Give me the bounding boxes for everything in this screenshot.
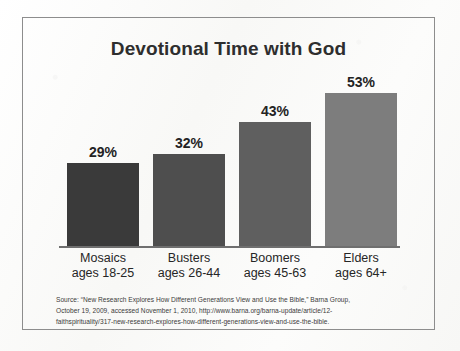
- bar-boomers: [239, 122, 311, 246]
- category-ages-busters: ages 26-44: [143, 266, 235, 281]
- category-label-boomers: Boomers ages 45-63: [229, 251, 321, 280]
- bar-value-label-boomers: 43%: [239, 103, 311, 119]
- source-line-3: faithspirituality/317-new-research-explo…: [56, 316, 426, 327]
- category-name-busters: Busters: [143, 251, 235, 266]
- figure-frame: Devotional Time with God 29% 32% 43% 53%…: [22, 17, 435, 330]
- x-axis-baseline: [59, 246, 400, 248]
- category-ages-elders: ages 64+: [315, 266, 407, 281]
- bar-group-boomers: 43%: [239, 74, 311, 246]
- x-axis-category-labels: Mosaics ages 18-25 Busters ages 26-44 Bo…: [63, 251, 396, 287]
- category-ages-mosaics: ages 18-25: [57, 266, 149, 281]
- source-citation: Source: “New Research Explores How Diffe…: [56, 294, 426, 328]
- bar-group-elders: 53%: [325, 74, 397, 246]
- category-ages-boomers: ages 45-63: [229, 266, 321, 281]
- category-label-elders: Elders ages 64+: [315, 251, 407, 280]
- bar-value-label-elders: 53%: [325, 74, 397, 90]
- category-name-boomers: Boomers: [229, 251, 321, 266]
- bar-value-label-busters: 32%: [153, 135, 225, 151]
- source-line-2: October 19, 2009, accessed November 1, 2…: [56, 305, 426, 316]
- bar-busters: [153, 154, 225, 246]
- bar-elders: [325, 93, 397, 246]
- bar-chart-plot-area: 29% 32% 43% 53%: [63, 74, 396, 246]
- category-label-busters: Busters ages 26-44: [143, 251, 235, 280]
- bar-mosaics: [67, 163, 139, 246]
- bar-value-label-mosaics: 29%: [67, 144, 139, 160]
- category-name-elders: Elders: [315, 251, 407, 266]
- source-line-1: Source: “New Research Explores How Diffe…: [56, 294, 426, 305]
- category-name-mosaics: Mosaics: [57, 251, 149, 266]
- bar-group-mosaics: 29%: [67, 74, 139, 246]
- bar-group-busters: 32%: [153, 74, 225, 246]
- page-title: Devotional Time with God: [23, 38, 434, 60]
- category-label-mosaics: Mosaics ages 18-25: [57, 251, 149, 280]
